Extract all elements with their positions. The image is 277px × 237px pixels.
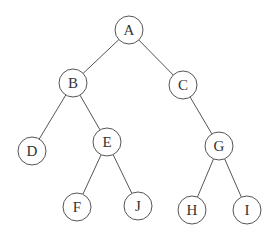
edges-layer <box>39 40 241 198</box>
edge-a-c <box>139 40 173 75</box>
edge-e-j <box>113 155 132 194</box>
node-label: J <box>135 198 141 214</box>
node-label: G <box>214 138 225 154</box>
node-label: D <box>27 143 38 159</box>
tree-node-i: I <box>233 196 261 224</box>
tree-node-b: B <box>59 69 87 97</box>
node-label: A <box>124 22 135 38</box>
node-label: I <box>245 202 250 218</box>
tree-node-c: C <box>169 71 197 99</box>
tree-node-d: D <box>18 137 46 165</box>
edge-b-e <box>80 95 100 130</box>
nodes-layer: ABCDEGFJHI <box>18 16 261 224</box>
node-label: H <box>187 202 198 218</box>
edge-g-i <box>225 159 242 197</box>
tree-node-h: H <box>178 196 206 224</box>
edge-c-g <box>190 97 212 134</box>
tree-node-a: A <box>115 16 143 44</box>
tree-node-e: E <box>93 128 121 156</box>
node-label: C <box>178 77 188 93</box>
edge-g-h <box>197 159 213 197</box>
edge-b-d <box>39 95 66 139</box>
binary-tree-diagram: ABCDEGFJHI <box>0 0 277 237</box>
node-label: F <box>73 199 81 215</box>
tree-node-f: F <box>63 193 91 221</box>
node-label: B <box>68 75 78 91</box>
node-label: E <box>102 134 111 150</box>
tree-node-g: G <box>205 132 233 160</box>
edge-e-f <box>83 155 101 195</box>
edge-a-b <box>83 40 119 74</box>
tree-node-j: J <box>124 192 152 220</box>
